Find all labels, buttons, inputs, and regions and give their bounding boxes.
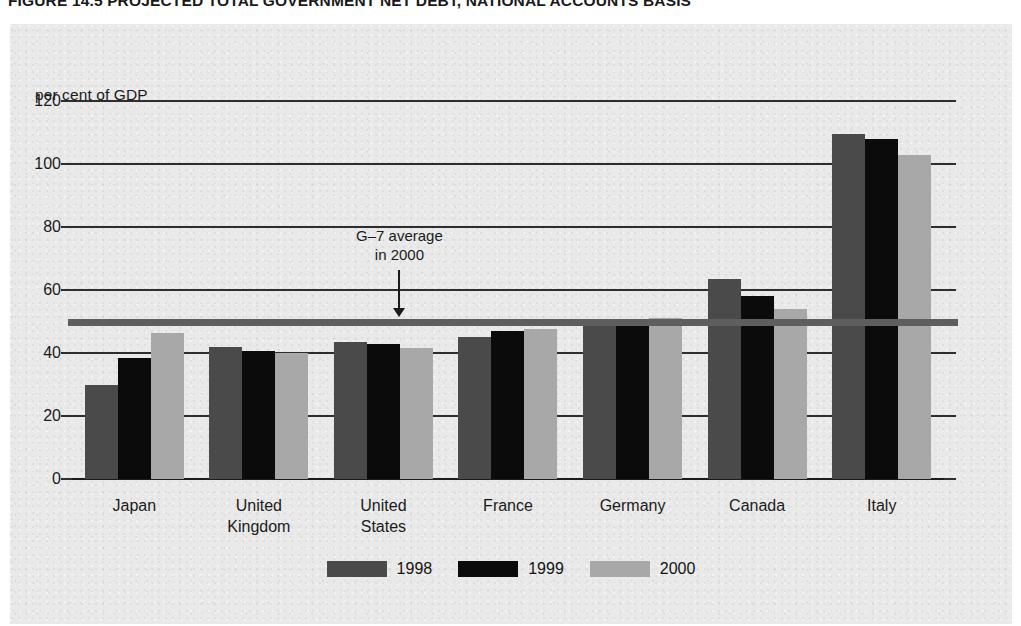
- y-tick-stub-right-120: [944, 100, 956, 102]
- y-tick-label-120: 120: [34, 92, 61, 110]
- legend-swatch-2000: [590, 561, 650, 577]
- y-tick-stub-right-40: [944, 352, 956, 354]
- legend-label-1999: 1999: [528, 560, 564, 578]
- chart-panel: per cent of GDP 020406080100120 G–7 aver…: [10, 24, 1012, 624]
- x-axis-label-line: United: [227, 495, 290, 516]
- bar-germany-1998: [583, 326, 616, 479]
- y-tick-stub-60: [61, 289, 72, 291]
- bar-italy-1999: [865, 139, 898, 479]
- bar-canada-2000: [774, 309, 807, 479]
- y-tick-label-0: 0: [52, 470, 61, 488]
- legend-swatch-1998: [327, 561, 387, 577]
- bar-germany-2000: [649, 318, 682, 479]
- bar-united-kingdom-2000: [275, 353, 308, 479]
- legend-item-1999[interactable]: 1999: [458, 560, 564, 578]
- y-tick-stub-right-100: [944, 163, 956, 165]
- x-axis-label-line: Japan: [112, 495, 156, 516]
- bar-united-kingdom-1998: [209, 347, 242, 479]
- x-axis-label-italy: Italy: [867, 495, 896, 516]
- y-tick-stub-100: [61, 163, 72, 165]
- legend-label-2000: 2000: [660, 560, 696, 578]
- x-axis-label-line: States: [360, 516, 406, 537]
- g7-annotation-line-2: in 2000: [289, 245, 509, 264]
- y-tick-label-20: 20: [43, 407, 61, 425]
- g7-annotation-arrow-shaft: [398, 270, 400, 308]
- g7-annotation-label: G–7 average in 2000: [289, 226, 509, 264]
- bar-japan-2000: [151, 333, 184, 479]
- y-tick-label-40: 40: [43, 344, 61, 362]
- bar-group-france: [446, 101, 571, 479]
- y-tick-stub-80: [61, 226, 72, 228]
- x-axis-label-line: Canada: [729, 495, 785, 516]
- bar-italy-2000: [898, 155, 931, 479]
- bar-group-japan: [72, 101, 197, 479]
- bar-group-canada: [695, 101, 820, 479]
- y-tick-stub-120: [61, 100, 72, 102]
- bar-groups: [72, 101, 944, 479]
- plot-area: 020406080100120 G–7 average in 2000: [72, 101, 944, 479]
- legend-swatch-1999: [458, 561, 518, 577]
- legend-item-2000[interactable]: 2000: [590, 560, 696, 578]
- bar-france-2000: [524, 329, 557, 479]
- x-axis-label-line: United: [360, 495, 406, 516]
- x-axis-label-united-states: UnitedStates: [360, 495, 406, 537]
- y-tick-label-100: 100: [34, 155, 61, 173]
- legend-label-1998: 1998: [397, 560, 433, 578]
- y-tick-stub-0: [61, 478, 72, 480]
- figure-title: FIGURE 14.5 PROJECTED TOTAL GOVERNMENT N…: [8, 0, 691, 14]
- bar-group-germany: [570, 101, 695, 479]
- bar-united-kingdom-1999: [242, 351, 275, 479]
- bar-italy-1998: [832, 134, 865, 479]
- x-axis-label-line: Kingdom: [227, 516, 290, 537]
- x-axis-label-japan: Japan: [112, 495, 156, 516]
- y-tick-stub-40: [61, 352, 72, 354]
- bar-japan-1998: [85, 385, 118, 480]
- y-tick-label-80: 80: [43, 218, 61, 236]
- x-axis-label-united-kingdom: UnitedKingdom: [227, 495, 290, 537]
- bar-united-states-2000: [400, 348, 433, 479]
- y-tick-label-60: 60: [43, 281, 61, 299]
- g7-annotation-arrowhead: [393, 308, 405, 317]
- bar-united-states-1999: [367, 344, 400, 479]
- bar-france-1999: [491, 331, 524, 479]
- y-tick-stub-right-60: [944, 289, 956, 291]
- bar-japan-1999: [118, 358, 151, 479]
- x-axis-label-germany: Germany: [600, 495, 666, 516]
- y-tick-stub-right-20: [944, 415, 956, 417]
- bar-germany-1999: [616, 323, 649, 479]
- bar-united-states-1998: [334, 342, 367, 479]
- y-tick-stub-20: [61, 415, 72, 417]
- bar-france-1998: [458, 337, 491, 479]
- x-axis-label-france: France: [483, 495, 533, 516]
- legend-item-1998[interactable]: 1998: [327, 560, 433, 578]
- y-tick-stub-right-0: [944, 478, 956, 480]
- x-axis-label-line: France: [483, 495, 533, 516]
- bar-canada-1998: [708, 279, 741, 479]
- bar-group-italy: [819, 101, 944, 479]
- x-axis-label-canada: Canada: [729, 495, 785, 516]
- y-tick-stub-right-80: [944, 226, 956, 228]
- bar-group-united-kingdom: [197, 101, 322, 479]
- x-axis-label-line: Italy: [867, 495, 896, 516]
- g7-annotation-line-1: G–7 average: [289, 226, 509, 245]
- chart-legend: 199819992000: [10, 560, 1012, 578]
- bar-group-united-states: [321, 101, 446, 479]
- x-axis-label-line: Germany: [600, 495, 666, 516]
- g7-average-reference-line: [68, 319, 958, 326]
